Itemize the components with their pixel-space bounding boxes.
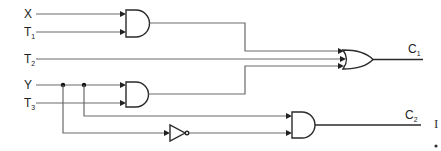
wire-y-to-and3: [84, 85, 288, 116]
or-gate: [343, 50, 373, 69]
arrow-icon: [286, 130, 292, 136]
arrow-icon: [340, 56, 346, 62]
input-label-t1: T1: [24, 25, 35, 40]
and-gate-3: [292, 112, 315, 138]
and-gate-2: [126, 82, 148, 107]
input-label-y: Y: [24, 78, 32, 92]
output-label-c1: C1: [408, 42, 421, 57]
logic-circuit-diagram: X T1 T2 Y T3 C1 C2 I: [0, 0, 441, 151]
arrow-icon: [120, 100, 126, 106]
output-label-c2: C2: [405, 108, 418, 123]
arrow-icon: [120, 11, 126, 17]
not-bubble: [185, 131, 189, 135]
wire-and1-to-or: [150, 23, 341, 51]
and-gate-1: [126, 10, 150, 37]
edge-dot-fragment: [434, 144, 437, 147]
edge-text-fragment: I: [434, 116, 438, 131]
arrow-icon: [164, 130, 170, 136]
arrow-icon: [120, 29, 126, 35]
input-label-x: X: [24, 7, 32, 21]
not-gate: [170, 125, 185, 141]
arrow-icon: [120, 82, 126, 88]
wire-and2-to-or: [149, 66, 341, 94]
wire-y-to-not: [63, 85, 166, 133]
arrow-icon: [286, 113, 292, 119]
input-label-t2: T2: [24, 52, 35, 67]
input-label-t3: T3: [24, 96, 35, 111]
